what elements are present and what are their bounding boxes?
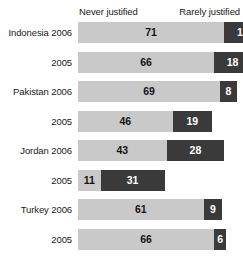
chart-row: Turkey 2006619 (0, 199, 243, 220)
chart-row: 2005666 (0, 229, 243, 250)
chart-row: 20051131 (0, 170, 243, 191)
stacked-bar: 666 (78, 229, 226, 250)
bar-segment-rarely-justified: 18 (214, 52, 243, 73)
stacked-bar: 1131 (78, 170, 165, 191)
stacked-bar: 4328 (78, 140, 224, 161)
chart-row: 20056618 (0, 52, 243, 73)
bar-segment-never-justified: 71 (78, 22, 224, 43)
bar-segment-never-justified: 66 (78, 52, 214, 73)
row-label-jordan-2006: Jordan 2006 (0, 140, 72, 161)
row-label-2005: 2005 (0, 170, 72, 191)
row-label-2005: 2005 (0, 52, 72, 73)
chart-row: Jordan 20064328 (0, 140, 243, 161)
row-label-pakistan-2006: Pakistan 2006 (0, 81, 72, 102)
row-label-2005: 2005 (0, 111, 72, 132)
stacked-bar: 619 (78, 199, 222, 220)
stacked-bar: 698 (78, 81, 237, 102)
bar-segment-rarely-justified: 9 (204, 199, 223, 220)
bar-segment-never-justified: 61 (78, 199, 204, 220)
stacked-bar-chart: Never justified Rarely justified Indones… (0, 0, 243, 260)
chart-row: Indonesia 20067118 (0, 22, 243, 43)
bar-segment-never-justified: 46 (78, 111, 173, 132)
stacked-bar: 7118 (78, 22, 243, 43)
legend-item-never-justified: Never justified (79, 5, 138, 18)
bar-segment-rarely-justified: 28 (167, 140, 225, 161)
bar-segment-never-justified: 43 (78, 140, 167, 161)
chart-row: Pakistan 2006698 (0, 81, 243, 102)
bar-segment-never-justified: 11 (78, 170, 101, 191)
row-label-2005: 2005 (0, 229, 72, 250)
legend-item-rarely-justified: Rarely justified (179, 5, 240, 18)
bar-segment-rarely-justified: 31 (101, 170, 165, 191)
bar-segment-rarely-justified: 6 (214, 229, 226, 250)
bar-segment-never-justified: 66 (78, 229, 214, 250)
row-label-indonesia-2006: Indonesia 2006 (0, 22, 72, 43)
chart-row: 20054619 (0, 111, 243, 132)
bar-segment-never-justified: 69 (78, 81, 220, 102)
stacked-bar: 4619 (78, 111, 212, 132)
bar-segment-rarely-justified: 18 (224, 22, 243, 43)
chart-rows: Indonesia 2006711820056618Pakistan 20066… (0, 20, 243, 260)
bar-segment-rarely-justified: 8 (220, 81, 236, 102)
row-label-turkey-2006: Turkey 2006 (0, 199, 72, 220)
stacked-bar: 6618 (78, 52, 243, 73)
chart-legend: Never justified Rarely justified (0, 4, 243, 20)
bar-segment-rarely-justified: 19 (173, 111, 212, 132)
